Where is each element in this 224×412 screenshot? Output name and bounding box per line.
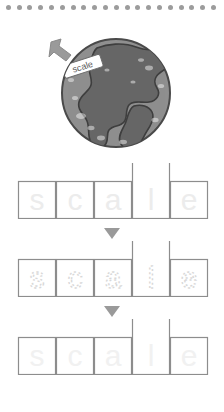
guide-letter: l xyxy=(148,339,155,372)
letter-box-l[interactable]: l xyxy=(133,163,170,219)
guide-letter: e xyxy=(181,339,198,372)
guide-letter: c xyxy=(68,339,83,372)
border-dot xyxy=(179,5,184,10)
guide-letter: e xyxy=(181,183,198,216)
letter-box-c[interactable]: c xyxy=(57,338,94,375)
letter-box-e[interactable]: e xyxy=(171,338,208,375)
separator-triangle-2 xyxy=(104,306,120,317)
border-dot xyxy=(103,5,108,10)
border-dot xyxy=(92,5,97,10)
guide-letter: e xyxy=(181,261,198,294)
guide-letter: c xyxy=(68,183,83,216)
border-dot xyxy=(81,5,86,10)
letter-box-s[interactable]: s xyxy=(19,182,56,219)
letter-box-e[interactable]: e xyxy=(171,182,208,219)
letter-box-e[interactable]: e xyxy=(171,260,208,297)
globe-illustration: scale xyxy=(0,24,224,154)
guide-letter: a xyxy=(105,261,122,294)
guide-letter: c xyxy=(68,261,83,294)
letter-box-l[interactable]: l xyxy=(133,319,170,375)
arrow-icon xyxy=(49,39,71,61)
word-box-row-2[interactable]: scale xyxy=(0,241,224,297)
border-dot xyxy=(38,5,43,10)
border-dot xyxy=(146,5,151,10)
border-dot xyxy=(135,5,140,10)
worksheet-page: scale scale scale scale xyxy=(0,0,224,412)
letter-box-s[interactable]: s xyxy=(19,338,56,375)
border-dot xyxy=(125,5,130,10)
border-dot xyxy=(114,5,119,10)
border-dot xyxy=(200,5,205,10)
border-dot xyxy=(60,5,65,10)
letter-box-l[interactable]: l xyxy=(133,241,170,297)
guide-letter: s xyxy=(30,261,45,294)
border-dot xyxy=(168,5,173,10)
letter-box-c[interactable]: c xyxy=(57,260,94,297)
guide-letter: s xyxy=(30,183,45,216)
border-dot xyxy=(27,5,32,10)
guide-letter: s xyxy=(30,339,45,372)
separator-triangle-1 xyxy=(104,228,120,239)
letter-box-c[interactable]: c xyxy=(57,182,94,219)
guide-letter: a xyxy=(105,183,122,216)
word-box-row-3[interactable]: scale xyxy=(0,319,224,375)
border-dot xyxy=(6,5,11,10)
border-dot xyxy=(71,5,76,10)
guide-letter: a xyxy=(105,339,122,372)
border-dot xyxy=(49,5,54,10)
border-dot xyxy=(17,5,22,10)
dotted-top-border xyxy=(0,0,224,14)
border-dot xyxy=(157,5,162,10)
letter-box-a[interactable]: a xyxy=(95,260,132,297)
guide-letter: l xyxy=(148,261,155,294)
border-dot xyxy=(211,5,216,10)
guide-letter: l xyxy=(148,183,155,216)
letter-box-s[interactable]: s xyxy=(19,260,56,297)
letter-box-a[interactable]: a xyxy=(95,182,132,219)
border-dot xyxy=(189,5,194,10)
letter-box-a[interactable]: a xyxy=(95,338,132,375)
word-box-row-1[interactable]: scale xyxy=(0,163,224,219)
